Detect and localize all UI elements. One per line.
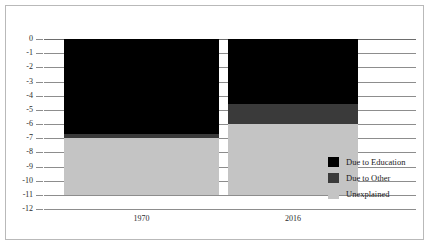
y-tick-label: -12 bbox=[22, 205, 33, 213]
y-tick-label: -5 bbox=[26, 106, 33, 114]
y-tick-mark bbox=[36, 124, 43, 125]
legend-swatch-icon bbox=[328, 189, 339, 199]
y-tick-label: -6 bbox=[26, 120, 33, 128]
y-tick-label: -9 bbox=[26, 163, 33, 171]
y-tick-label: 0 bbox=[29, 35, 33, 43]
y-tick-mark bbox=[36, 67, 43, 68]
y-tick-label: -8 bbox=[26, 148, 33, 156]
bar-segment bbox=[228, 104, 358, 124]
legend-label: Unexplained bbox=[346, 190, 389, 199]
gridline--12 bbox=[44, 209, 416, 210]
y-tick-mark bbox=[36, 39, 43, 40]
x-axis-label-2016: 2016 bbox=[285, 215, 301, 223]
y-tick-label: -4 bbox=[26, 92, 33, 100]
y-tick-label: -10 bbox=[22, 177, 33, 185]
y-tick-mark bbox=[36, 209, 43, 210]
chart-legend: Due to EducationDue to OtherUnexplained bbox=[328, 154, 405, 202]
bar-segment bbox=[228, 39, 358, 104]
y-tick-label: -1 bbox=[26, 49, 33, 57]
y-tick-mark bbox=[36, 181, 43, 182]
legend-item[interactable]: Due to Education bbox=[328, 154, 405, 170]
bar-1970 bbox=[64, 39, 219, 209]
y-tick-mark bbox=[36, 138, 43, 139]
y-tick-mark bbox=[36, 152, 43, 153]
y-tick-label: -7 bbox=[26, 134, 33, 142]
legend-swatch-icon bbox=[328, 173, 339, 183]
legend-item[interactable]: Unexplained bbox=[328, 186, 405, 202]
x-axis-label-1970: 1970 bbox=[134, 215, 150, 223]
y-tick-mark bbox=[36, 53, 43, 54]
chart-figure: 0-1-2-3-4-5-6-7-8-9-10-11-12 19702016 Du… bbox=[5, 5, 424, 240]
y-tick-mark bbox=[36, 82, 43, 83]
legend-label: Due to Education bbox=[346, 158, 405, 167]
y-tick-label: -11 bbox=[23, 191, 33, 199]
bar-segment bbox=[64, 138, 219, 195]
y-tick-mark bbox=[36, 110, 43, 111]
y-tick-label: -3 bbox=[26, 78, 33, 86]
legend-swatch-icon bbox=[328, 157, 339, 167]
y-tick-mark bbox=[36, 96, 43, 97]
y-tick-label: -2 bbox=[26, 63, 33, 71]
y-tick-mark bbox=[36, 195, 43, 196]
y-tick-mark bbox=[36, 167, 43, 168]
legend-label: Due to Other bbox=[346, 174, 390, 183]
bar-segment bbox=[64, 39, 219, 134]
legend-item[interactable]: Due to Other bbox=[328, 170, 405, 186]
